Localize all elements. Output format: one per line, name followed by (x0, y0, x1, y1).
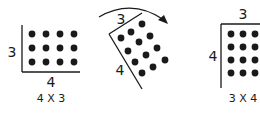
dot-array-3x4 (29, 31, 78, 66)
top-label: 3 (239, 6, 248, 22)
arrowhead-icon (158, 15, 168, 24)
bottom-label: 4 (47, 74, 56, 90)
side-label: 4 (116, 62, 125, 78)
top-label: 3 (117, 11, 126, 27)
side-label: 4 (209, 48, 218, 64)
panel-3x4: 3 4 3 X 4 (209, 6, 260, 105)
rotation-arrow-icon (99, 8, 164, 20)
dot-array-4x3 (228, 31, 259, 77)
dot-array-rotated (118, 21, 169, 77)
caption: 3 X 4 (229, 92, 258, 105)
top-edge-line (109, 13, 142, 34)
panel-4x3: 3 4 4 X 3 (8, 25, 80, 105)
caption: 4 X 3 (37, 92, 66, 105)
commutative-multiplication-diagram: 3 4 4 X 3 3 4 3 4 3 X 4 (0, 0, 260, 113)
side-label: 3 (8, 44, 17, 60)
panel-rotating: 3 4 (99, 8, 168, 89)
